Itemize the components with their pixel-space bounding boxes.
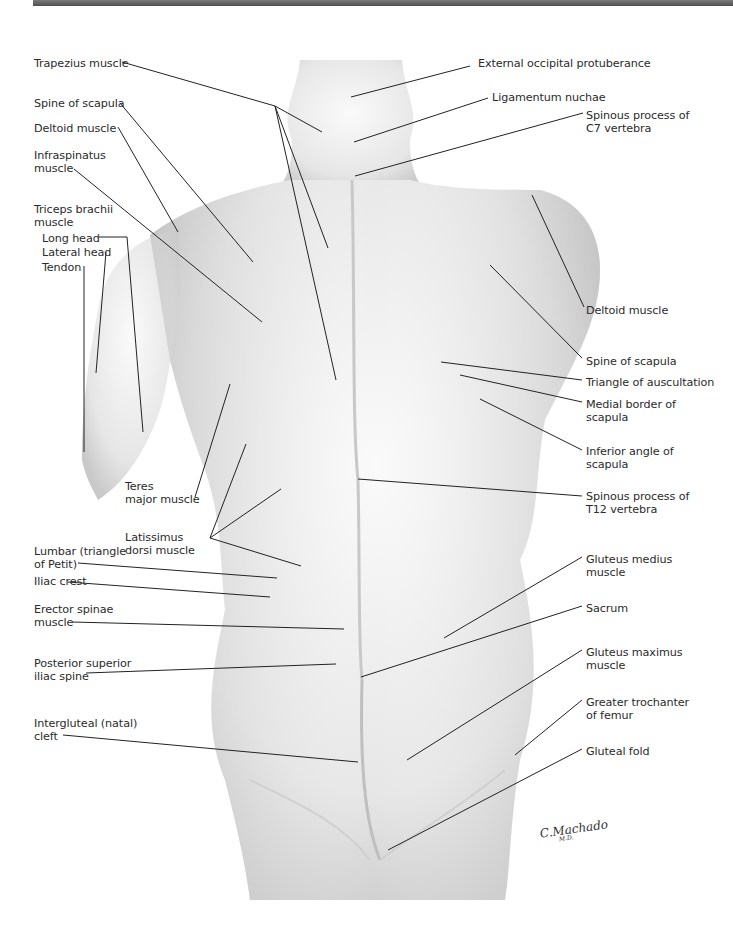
label-iliac-crest: Iliac crest [34,575,87,588]
label-deltoid-r: Deltoid muscle [586,304,668,317]
leader-line [122,62,275,106]
label-greater-trochanter: Greater trochanter of femur [586,696,689,722]
label-lumbar-triangle: Lumbar (triangle of Petit) [34,545,126,571]
label-gluteus-maximus: Gluteus maximus muscle [586,646,682,672]
label-triceps: Triceps brachii muscle [34,203,113,229]
label-trapezius: Trapezius muscle [34,57,128,70]
label-t12: Spinous process of T12 vertebra [586,490,689,516]
label-infraspinatus: Infraspinatus muscle [34,149,106,175]
label-spine-scapula-l: Spine of scapula [34,97,125,110]
label-deltoid-l: Deltoid muscle [34,122,116,135]
label-triceps-tendon: Tendon [42,261,81,274]
label-ext-occipital: External occipital protuberance [478,57,651,70]
label-psis: Posterior superior iliac spine [34,657,131,683]
label-spine-scapula-r: Spine of scapula [586,355,677,368]
label-c7: Spinous process of C7 vertebra [586,109,689,135]
label-auscultation: Triangle of auscultation [586,376,714,389]
label-gluteal-fold: Gluteal fold [586,745,649,758]
label-lig-nuchae: Ligamentum nuchae [492,91,606,104]
label-intergluteal: Intergluteal (natal) cleft [34,717,137,743]
label-triceps-long: Long head [42,232,100,245]
label-medial-border: Medial border of scapula [586,398,676,424]
label-gluteus-medius: Gluteus medius muscle [586,553,672,579]
label-latissimus: Latissimus dorsi muscle [125,531,195,557]
label-triceps-lateral: Lateral head [42,246,111,259]
label-inferior-angle: Inferior angle of scapula [586,445,674,471]
label-sacrum: Sacrum [586,602,628,615]
leader-line [118,127,178,232]
label-teres-major: Teres major muscle [125,480,200,506]
label-erector-spinae: Erector spinae muscle [34,603,113,629]
